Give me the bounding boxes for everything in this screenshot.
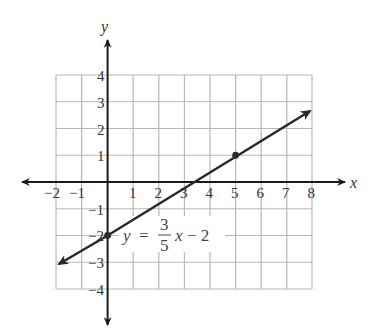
y-axis-label: y (99, 18, 109, 36)
tick-x-4: 4 (206, 185, 214, 201)
eq-numerator: 3 (160, 215, 169, 234)
tick-y--1: −1 (88, 202, 104, 218)
tick-x-1: 1 (129, 185, 137, 201)
tick-y-2: 2 (97, 122, 105, 138)
x-axis-label: x (349, 174, 357, 191)
eq-denominator: 5 (160, 236, 169, 255)
eq-equals: = (139, 226, 149, 245)
tick-x-8: 8 (308, 185, 316, 201)
x-tick-labels: −2 −1 1 2 3 4 5 6 7 8 (44, 185, 315, 201)
tick-y--4: −4 (88, 282, 104, 298)
eq-var: x (174, 226, 183, 245)
eq-lhs: y (121, 226, 131, 245)
equation-label: y = 3 5 x − 2 (119, 215, 225, 255)
tick-y-4: 4 (97, 68, 105, 84)
tick-y-3: 3 (97, 95, 105, 111)
tick-y-1: 1 (97, 148, 105, 164)
coordinate-plane: y x −2 −1 1 2 3 4 5 6 7 8 4 3 2 1 −1 −2 … (0, 0, 371, 331)
point-0--2 (104, 232, 111, 239)
tick-x-2: 2 (155, 185, 163, 201)
tick-x--1: −1 (69, 185, 85, 201)
tick-x-6: 6 (257, 185, 265, 201)
eq-rest: − 2 (187, 226, 209, 245)
tick-x--2: −2 (44, 185, 60, 201)
point-5-1 (232, 152, 239, 159)
tick-x-7: 7 (282, 185, 290, 201)
tick-y--3: −3 (88, 255, 104, 271)
tick-x-5: 5 (231, 185, 239, 201)
